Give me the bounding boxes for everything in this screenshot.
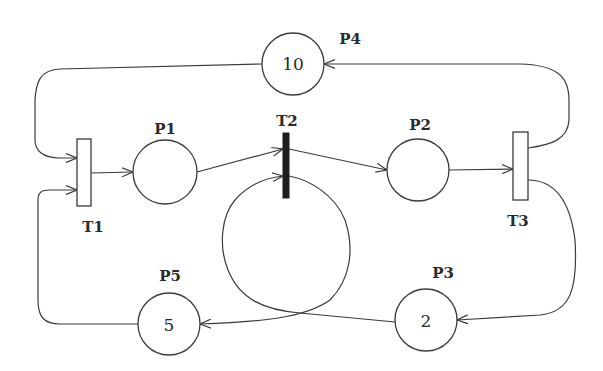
place-p5[interactable]: 5 P5 xyxy=(138,267,200,355)
transition-t1-label: T1 xyxy=(82,218,104,236)
place-p2-label: P2 xyxy=(409,116,431,134)
place-p3-tokens: 2 xyxy=(421,311,432,331)
arc-t1-p1 xyxy=(91,172,133,173)
place-p5-tokens: 5 xyxy=(164,315,175,335)
transition-t2-label: T2 xyxy=(276,112,298,130)
place-p1-circle xyxy=(133,140,197,204)
place-p2[interactable]: P2 xyxy=(387,116,449,201)
transition-t3-label: T3 xyxy=(507,212,529,230)
arc-t2-p2 xyxy=(289,149,387,170)
place-p1-label: P1 xyxy=(154,120,176,138)
place-p3[interactable]: 2 P3 xyxy=(395,264,457,351)
arc-p2-t3 xyxy=(449,169,513,170)
place-p4[interactable]: 10 P4 xyxy=(262,30,361,95)
arc-p1-t2 xyxy=(197,149,283,172)
place-p5-label: P5 xyxy=(159,267,181,285)
transition-t3[interactable]: T3 xyxy=(507,132,529,230)
transition-t2-bar xyxy=(283,133,289,198)
arc-p5-t1 xyxy=(38,190,138,324)
place-p2-circle xyxy=(387,139,449,201)
place-p3-label: P3 xyxy=(432,264,454,282)
transition-t1-bar xyxy=(77,139,91,206)
transition-t3-bar xyxy=(513,132,528,200)
arc-p3-t2 xyxy=(222,176,395,322)
place-p4-label: P4 xyxy=(339,30,361,48)
arc-t3-p4 xyxy=(324,64,569,148)
petri-net-diagram: 10 P4 P1 P2 2 P3 5 P5 T1 T2 T3 xyxy=(0,0,603,371)
transition-t2[interactable]: T2 xyxy=(276,112,298,198)
place-p4-tokens: 10 xyxy=(282,54,304,74)
arc-t3-p3 xyxy=(457,180,576,320)
place-p1[interactable]: P1 xyxy=(133,120,197,204)
transition-t1[interactable]: T1 xyxy=(77,139,104,236)
